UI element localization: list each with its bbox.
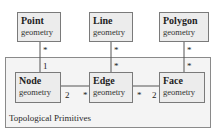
class-attribute: geometry	[21, 27, 57, 38]
class-face[interactable]: Face geometry	[159, 72, 205, 103]
multiplicity-edge-left: *	[83, 91, 88, 100]
multiplicity-line-edge: *	[114, 62, 119, 71]
multiplicity-polygon-face: *	[187, 62, 192, 71]
multiplicity-point-node: 1	[43, 62, 48, 71]
class-polygon[interactable]: Polygon geometry	[159, 12, 209, 42]
class-node[interactable]: Node geometry	[15, 72, 61, 103]
multiplicity-point-top: *	[43, 46, 48, 55]
class-attribute: geometry	[93, 27, 129, 38]
class-name: Edge	[93, 75, 129, 87]
class-line[interactable]: Line geometry	[89, 12, 133, 42]
class-attribute: geometry	[19, 87, 57, 98]
multiplicity-line-top: *	[114, 46, 119, 55]
class-attribute: geometry	[163, 87, 201, 98]
class-name: Point	[21, 15, 57, 27]
class-name: Line	[93, 15, 129, 27]
class-edge[interactable]: Edge geometry	[89, 72, 133, 103]
class-name: Polygon	[163, 15, 205, 27]
multiplicity-polygon-top: *	[187, 46, 192, 55]
multiplicity-face-side: 2	[152, 91, 157, 100]
class-point[interactable]: Point geometry	[17, 12, 61, 42]
class-attribute: geometry	[163, 27, 205, 38]
class-attribute: geometry	[93, 87, 129, 98]
multiplicity-edge-right: *	[137, 91, 142, 100]
class-name: Face	[163, 75, 201, 87]
multiplicity-node-side: 2	[65, 91, 70, 100]
class-name: Node	[19, 75, 57, 87]
